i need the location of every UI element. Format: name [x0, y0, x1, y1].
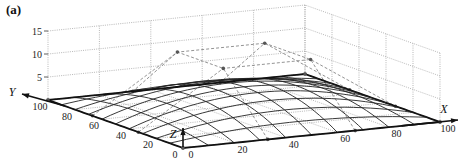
- side-wall-grid-line: [305, 28, 440, 76]
- z-tick-label: 10: [32, 49, 42, 60]
- x-tick-label: 20: [237, 144, 247, 155]
- control-point-marker: [222, 67, 226, 71]
- tick-labels: 02040608010002040608010051015XYZ: [9, 26, 456, 161]
- x-tick-label: 40: [289, 139, 299, 150]
- surface-mesh: [46, 72, 442, 150]
- y-tick-label: 20: [143, 139, 153, 150]
- x-tick-label: 100: [441, 123, 456, 134]
- y-tick-label: 60: [89, 120, 99, 131]
- control-polygon-line: [133, 52, 268, 139]
- y-tick-label: 40: [116, 130, 126, 141]
- control-point-marker: [263, 41, 267, 45]
- z-tick-label: 15: [32, 26, 42, 37]
- side-wall-grid-line: [305, 5, 440, 53]
- y-axis-arrow-head: [22, 93, 29, 98]
- y-axis-label: Y: [9, 85, 17, 99]
- control-point-marker: [176, 50, 180, 54]
- x-tick-label: 80: [392, 128, 402, 139]
- back-wall-grid-line: [48, 5, 305, 31]
- x-tick-label: 60: [340, 133, 350, 144]
- z-tick-label: 5: [37, 72, 42, 83]
- surface-mesh-line: [102, 81, 359, 119]
- z-axis-label: Z: [170, 127, 177, 141]
- y-tick-label: 0: [173, 149, 178, 160]
- y-tick-label: 80: [62, 111, 72, 122]
- back-wall-grid-line: [48, 51, 305, 77]
- x-tick-label: 0: [189, 149, 194, 160]
- x-axis-label: X: [439, 102, 448, 116]
- y-tick-label: 100: [33, 101, 48, 112]
- control-point-marker: [309, 58, 313, 62]
- surface-mesh-line: [177, 81, 312, 135]
- surface-mesh-line: [48, 74, 305, 100]
- 3d-surface-plot: 02040608010002040608010051015XYZ: [0, 0, 468, 163]
- back-wall-grid-line: [48, 28, 305, 54]
- surface-corner-marker: [303, 72, 307, 76]
